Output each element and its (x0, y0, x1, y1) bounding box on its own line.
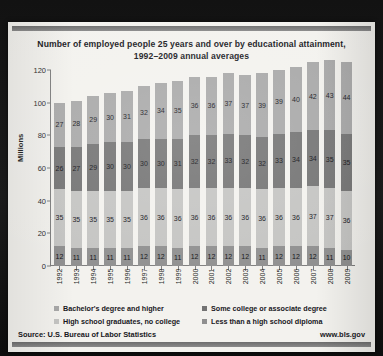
bar-segment[interactable]: 36 (189, 77, 201, 136)
bar-group[interactable]: 282735111993 (68, 70, 85, 266)
bar-segment[interactable]: 33 (273, 134, 285, 188)
bar-segment[interactable]: 35 (341, 134, 353, 191)
bar-segment[interactable]: 35 (121, 191, 133, 248)
bar-segment[interactable]: 36 (239, 188, 251, 247)
bls-url-link[interactable]: www.bls.gov (320, 330, 365, 339)
bar-segment[interactable]: 32 (189, 135, 201, 187)
bar-segment[interactable]: 28 (71, 101, 83, 147)
bar-group[interactable]: 292935111994 (85, 70, 102, 266)
bar-group[interactable]: 272635121992 (51, 70, 68, 266)
stacked-bar[interactable]: 37333612 (223, 73, 235, 266)
bar-segment[interactable]: 37 (307, 186, 319, 246)
bar-group[interactable]: 353136111999 (169, 70, 186, 266)
bar-segment[interactable]: 35 (324, 130, 336, 187)
bar-segment[interactable]: 36 (341, 191, 353, 250)
bar-group[interactable]: 423437122007 (304, 70, 321, 266)
stacked-bar[interactable]: 35313611 (172, 81, 184, 266)
bar-segment[interactable]: 43 (324, 60, 336, 130)
legend-item[interactable]: Some college or associate degree (202, 304, 344, 313)
bar-segment[interactable]: 12 (155, 246, 167, 266)
bar-segment[interactable]: 27 (71, 147, 83, 191)
bar-segment[interactable]: 26 (54, 147, 66, 189)
bar-group[interactable]: 363236122001 (203, 70, 220, 266)
bar-segment[interactable]: 35 (172, 81, 184, 138)
bar-segment[interactable]: 34 (155, 83, 167, 139)
bar-segment[interactable]: 34 (290, 132, 302, 188)
bar-segment[interactable]: 36 (138, 188, 150, 247)
bar-group[interactable]: 433537112008 (321, 70, 338, 266)
bar-segment[interactable]: 30 (121, 142, 133, 191)
bar-segment[interactable]: 11 (121, 248, 133, 266)
bar-group[interactable]: 373336122002 (220, 70, 237, 266)
bar-segment[interactable]: 36 (206, 77, 218, 136)
bar-segment[interactable]: 27 (54, 103, 66, 147)
bar-segment[interactable]: 12 (273, 246, 285, 266)
stacked-bar[interactable]: 29293511 (87, 96, 99, 266)
bar-segment[interactable]: 12 (290, 246, 302, 266)
bar-segment[interactable]: 11 (87, 248, 99, 266)
bar-segment[interactable]: 33 (223, 134, 235, 188)
bar-segment[interactable]: 31 (172, 139, 184, 190)
bar-segment[interactable]: 36 (273, 188, 285, 247)
bar-segment[interactable]: 12 (54, 246, 66, 266)
stacked-bar[interactable]: 32303612 (138, 86, 150, 266)
bar-segment[interactable]: 32 (239, 135, 251, 187)
bar-group[interactable]: 323036121997 (135, 70, 152, 266)
bar-segment[interactable]: 12 (206, 246, 218, 266)
bar-segment[interactable]: 12 (307, 246, 319, 266)
bar-group[interactable]: 373236122003 (237, 70, 254, 266)
stacked-bar[interactable]: 43353711 (324, 60, 336, 266)
bar-segment[interactable]: 37 (324, 188, 336, 248)
bar-segment[interactable]: 30 (155, 139, 167, 188)
bar-segment[interactable]: 37 (239, 75, 251, 135)
legend-item[interactable]: High school graduates, no college (54, 317, 196, 326)
bar-group[interactable]: 393336122005 (271, 70, 288, 266)
bar-segment[interactable]: 12 (223, 246, 235, 266)
bar-segment[interactable]: 36 (172, 189, 184, 248)
bar-segment[interactable]: 30 (104, 142, 116, 191)
stacked-bar[interactable]: 37323612 (239, 75, 251, 266)
stacked-bar[interactable]: 36323612 (189, 77, 201, 266)
bar-segment[interactable]: 11 (324, 248, 336, 266)
bar-segment[interactable]: 36 (256, 189, 268, 248)
bar-group[interactable]: 403436122006 (287, 70, 304, 266)
stacked-bar[interactable]: 39323611 (256, 73, 268, 266)
bar-segment[interactable]: 32 (256, 137, 268, 189)
bar-group[interactable]: 393236112004 (254, 70, 271, 266)
bar-group[interactable]: 443536102009 (338, 70, 355, 266)
stacked-bar[interactable]: 44353610 (341, 62, 353, 266)
bar-segment[interactable]: 39 (256, 73, 268, 137)
bar-segment[interactable]: 29 (87, 96, 99, 143)
bar-segment[interactable]: 39 (273, 70, 285, 134)
bar-segment[interactable]: 44 (341, 62, 353, 134)
stacked-bar[interactable]: 30303511 (104, 93, 116, 266)
bar-group[interactable]: 303035111995 (102, 70, 119, 266)
stacked-bar[interactable]: 39333612 (273, 70, 285, 266)
legend-item[interactable]: Less than a high school diploma (202, 317, 344, 326)
bar-segment[interactable]: 12 (189, 246, 201, 266)
bar-segment[interactable]: 36 (290, 188, 302, 247)
bar-group[interactable]: 313035111996 (119, 70, 136, 266)
legend-item[interactable]: Bachelor's degree and higher (54, 304, 196, 313)
bar-group[interactable]: 343036121998 (152, 70, 169, 266)
bar-segment[interactable]: 11 (71, 248, 83, 266)
bar-segment[interactable]: 34 (307, 130, 319, 186)
bar-segment[interactable]: 31 (121, 91, 133, 142)
bar-segment[interactable]: 35 (104, 191, 116, 248)
bar-segment[interactable]: 36 (223, 188, 235, 247)
bar-segment[interactable]: 36 (206, 188, 218, 247)
bar-segment[interactable]: 11 (104, 248, 116, 266)
bar-segment[interactable]: 40 (290, 67, 302, 132)
stacked-bar[interactable]: 31303511 (121, 91, 133, 266)
bar-segment[interactable]: 37 (223, 73, 235, 133)
stacked-bar[interactable]: 40343612 (290, 67, 302, 266)
bar-segment[interactable]: 35 (71, 191, 83, 248)
bar-segment[interactable]: 32 (206, 135, 218, 187)
bar-segment[interactable]: 29 (87, 144, 99, 191)
stacked-bar[interactable]: 28273511 (71, 101, 83, 266)
bar-group[interactable]: 363236122000 (186, 70, 203, 266)
bar-segment[interactable]: 10 (341, 250, 353, 266)
stacked-bar[interactable]: 34303612 (155, 83, 167, 266)
stacked-bar[interactable]: 27263512 (54, 103, 66, 266)
stacked-bar[interactable]: 42343712 (307, 62, 319, 266)
